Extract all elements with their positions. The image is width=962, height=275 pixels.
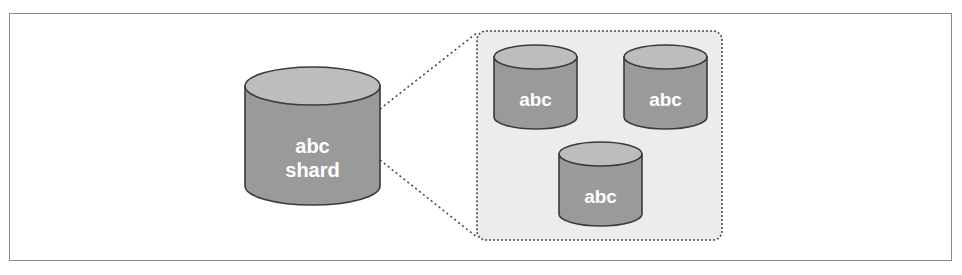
shard-cylinder: abc shard: [245, 67, 380, 205]
replica-cylinder-3: abc: [559, 142, 642, 226]
connector-bottom: [380, 160, 478, 238]
shard-label-line1: abc: [295, 135, 329, 157]
replica-cylinder-2: abc: [624, 45, 707, 129]
replica-label-1: abc: [519, 89, 552, 110]
replica-label-3: abc: [584, 186, 617, 207]
connector-top: [380, 32, 478, 109]
replica-label-2: abc: [649, 89, 682, 110]
replica-cylinder-1: abc: [494, 45, 577, 129]
shard-label-line2: shard: [285, 159, 339, 181]
sharding-diagram: abc shard abc abc abc: [0, 0, 962, 275]
